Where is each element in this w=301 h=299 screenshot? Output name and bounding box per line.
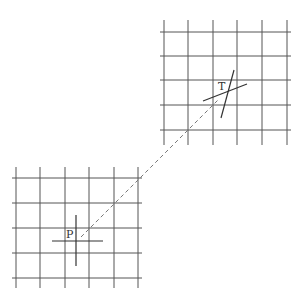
p-label: P	[66, 228, 74, 241]
t-cross-marker	[203, 70, 247, 118]
target-grid	[160, 20, 291, 145]
p-cross-marker	[52, 215, 103, 266]
cross-stroke	[221, 70, 234, 118]
diagram-canvas: P T	[0, 0, 301, 299]
dashed-connector-line	[81, 99, 219, 237]
origin-grid	[12, 167, 142, 288]
t-label: T	[218, 80, 226, 93]
